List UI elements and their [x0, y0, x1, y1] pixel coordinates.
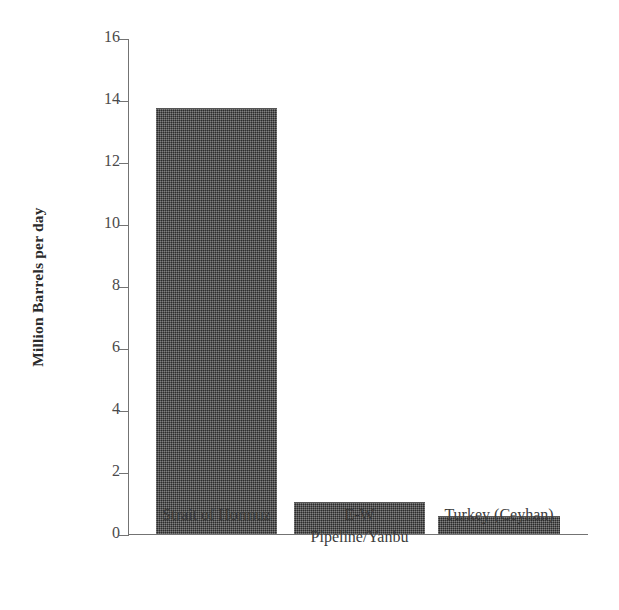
- y-tick-mark: [119, 349, 128, 350]
- plot-area: 0246810121416: [128, 39, 588, 535]
- y-tick-label: 0: [112, 524, 120, 542]
- y-tick-mark: [119, 39, 128, 40]
- bar-chart: Million Barrels per day 0246810121416 St…: [0, 0, 619, 610]
- y-tick-label: 12: [104, 152, 120, 170]
- y-tick-label: 4: [112, 400, 120, 418]
- y-tick-mark: [119, 535, 128, 536]
- y-tick-label: 16: [104, 28, 120, 46]
- y-tick-mark: [119, 163, 128, 164]
- y-tick-mark: [119, 101, 128, 102]
- x-axis-label-line: Turkey (Ceyhan): [444, 506, 553, 523]
- y-tick-mark: [119, 225, 128, 226]
- y-tick-label: 8: [112, 276, 120, 294]
- x-axis-label-line: E-W: [344, 506, 374, 523]
- y-tick-label: 10: [104, 214, 120, 232]
- y-axis-line: [128, 39, 129, 536]
- x-axis-label: Turkey (Ceyhan): [389, 504, 609, 526]
- y-axis-title: Million Barrels per day: [29, 187, 47, 387]
- y-tick-mark: [119, 287, 128, 288]
- y-tick-label: 6: [112, 338, 120, 356]
- x-axis-label-line: Pipeline/Yanbu: [250, 526, 470, 548]
- bar: [156, 108, 277, 534]
- y-tick-mark: [119, 473, 128, 474]
- y-tick-label: 2: [112, 462, 120, 480]
- y-tick-mark: [119, 411, 128, 412]
- y-tick-label: 14: [104, 90, 120, 108]
